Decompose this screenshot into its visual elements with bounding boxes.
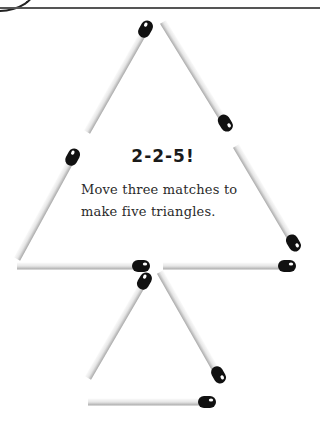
match-top-right[interactable]	[158, 19, 235, 134]
match-top-left[interactable]	[82, 18, 155, 135]
match-stick	[160, 20, 229, 126]
match-stick	[233, 144, 297, 245]
match-head	[278, 260, 296, 272]
match-head-highlight	[143, 262, 147, 265]
match-bottom-left[interactable]	[17, 260, 150, 272]
match-stick	[157, 270, 222, 377]
match-head-highlight	[209, 398, 213, 401]
match-head	[132, 260, 150, 272]
match-stick	[14, 155, 76, 261]
match-small-bottom[interactable]	[88, 396, 216, 408]
match-small-right[interactable]	[155, 269, 228, 386]
match-head	[198, 396, 216, 408]
puzzle-title: 2-2-5!	[118, 146, 208, 166]
match-stick	[85, 278, 148, 379]
match-stick	[84, 26, 149, 133]
match-stick	[88, 399, 208, 406]
puzzle-description: Move three matches to make five triangle…	[81, 179, 241, 223]
match-small-left[interactable]	[83, 270, 154, 381]
match-bottom-right[interactable]	[163, 260, 296, 272]
match-head-highlight	[289, 262, 293, 265]
puzzle-description-line-2: make five triangles.	[81, 201, 241, 223]
match-right-lower[interactable]	[231, 143, 303, 254]
match-stick	[163, 263, 288, 270]
match-stick	[17, 263, 142, 270]
match-left-lower[interactable]	[12, 146, 82, 262]
puzzle-description-line-1: Move three matches to	[81, 179, 241, 201]
